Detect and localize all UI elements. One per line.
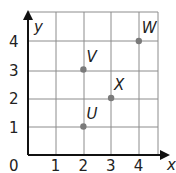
x-tick-label: 3 <box>106 157 116 173</box>
point-v <box>80 66 86 72</box>
x-tick-label: 1 <box>51 157 61 173</box>
grid-lines <box>28 12 158 155</box>
axes <box>28 18 163 155</box>
y-axis-label: y <box>33 18 44 36</box>
point-label: U <box>86 105 97 123</box>
coordinate-grid: y x 01234 1234 UVXW <box>0 0 176 173</box>
point-label: V <box>86 48 98 66</box>
y-tick-label: 2 <box>9 90 19 108</box>
point-u <box>80 123 86 129</box>
x-tick-label: 0 <box>9 157 19 173</box>
point-x <box>108 95 114 101</box>
point-w <box>136 38 142 44</box>
y-tick-labels: 1234 <box>9 33 19 137</box>
point-label: X <box>113 76 125 94</box>
x-tick-labels: 01234 <box>9 157 143 173</box>
x-axis-label: x <box>166 156 176 173</box>
x-tick-label: 4 <box>134 157 144 173</box>
y-tick-label: 4 <box>9 33 19 51</box>
y-tick-label: 1 <box>9 119 19 137</box>
data-points: UVXW <box>80 19 158 130</box>
point-label: W <box>142 19 158 37</box>
y-tick-label: 3 <box>9 62 19 80</box>
x-tick-label: 2 <box>78 157 88 173</box>
